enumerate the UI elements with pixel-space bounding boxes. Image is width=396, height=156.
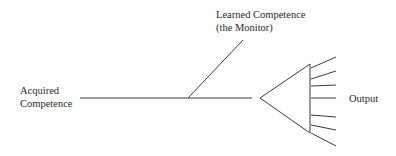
output-rays [311, 57, 336, 146]
acquired-label-line1: Acquired [20, 84, 72, 97]
monitor-line [188, 40, 243, 98]
output-label: Output [349, 92, 378, 105]
output-triangle [260, 64, 310, 133]
learned-label-line2: (the Monitor) [216, 21, 306, 34]
acquired-label-line2: Competence [20, 97, 72, 110]
learned-competence-label: Learned Competence (the Monitor) [216, 8, 306, 34]
acquired-competence-label: Acquired Competence [20, 84, 72, 110]
learned-label-line1: Learned Competence [216, 8, 306, 21]
diagram-canvas [0, 0, 396, 156]
